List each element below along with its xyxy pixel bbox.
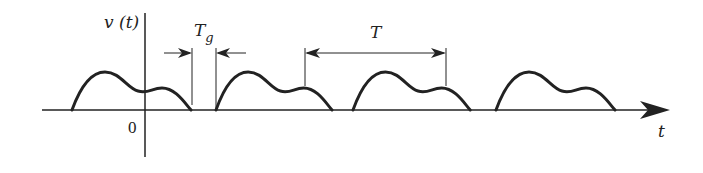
guard-time-label-sub: g [205,30,213,45]
period-label: T [370,22,383,42]
guard-time-label: Tg [194,20,214,45]
pulse-2 [216,72,332,110]
pulse-3 [353,72,470,110]
x-axis-label: t [658,121,665,141]
pulse-4 [496,72,615,110]
pulse-1 [72,72,191,110]
pulse-train-diagram: v (t) Tg T 0 t [0,0,703,173]
y-axis-label: v (t) [104,12,139,32]
origin-label: 0 [128,118,137,137]
period-marker [305,48,446,86]
